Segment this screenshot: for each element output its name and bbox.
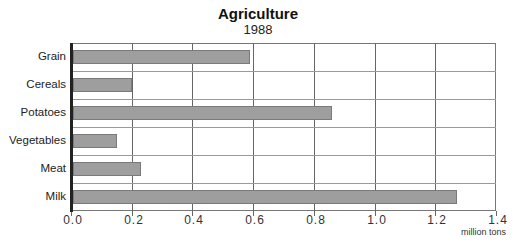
chart-title: Agriculture bbox=[0, 5, 516, 22]
category-label: Vegetables bbox=[9, 134, 66, 146]
x-tick-label: 0.2 bbox=[124, 213, 144, 227]
row-separator bbox=[71, 71, 496, 72]
bar-meat bbox=[73, 162, 141, 176]
row-separator bbox=[71, 155, 496, 156]
category-label: Cereals bbox=[26, 78, 66, 90]
x-tick-label: 0.0 bbox=[63, 213, 83, 227]
x-tick-label: 1.4 bbox=[488, 213, 508, 227]
x-axis-unit-label: million tons bbox=[461, 227, 506, 237]
row-separator bbox=[71, 127, 496, 128]
x-tick-label: 1.2 bbox=[427, 213, 447, 227]
x-tick-label: 0.4 bbox=[184, 213, 204, 227]
category-label: Grain bbox=[38, 50, 66, 62]
category-label: Potatoes bbox=[21, 106, 66, 118]
row-separator bbox=[71, 183, 496, 184]
x-tick-label: 0.6 bbox=[245, 213, 265, 227]
bar-grain bbox=[73, 50, 250, 64]
bar-milk bbox=[73, 190, 457, 204]
bar-vegetables bbox=[73, 134, 117, 148]
x-tick-label: 1.0 bbox=[367, 213, 387, 227]
chart-subtitle: 1988 bbox=[0, 22, 516, 37]
y-axis-line bbox=[70, 43, 73, 212]
bar-potatoes bbox=[73, 106, 332, 120]
category-label: Milk bbox=[46, 190, 66, 202]
row-separator bbox=[71, 99, 496, 100]
x-tick-label: 0.8 bbox=[306, 213, 326, 227]
category-label: Meat bbox=[40, 162, 66, 174]
bar-cereals bbox=[73, 78, 132, 92]
